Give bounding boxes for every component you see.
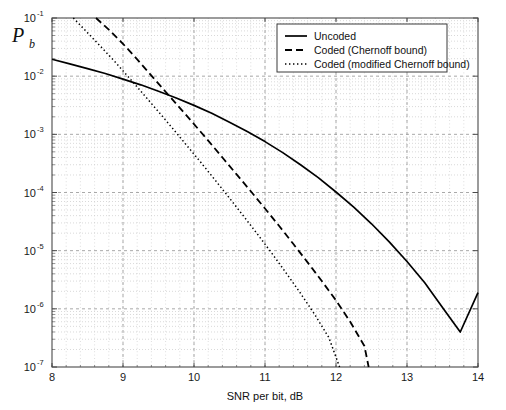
y-tick-label: 10	[24, 12, 36, 24]
x-tick-label: 10	[188, 371, 200, 383]
y-axis-label-subscript: b	[29, 37, 35, 51]
x-tick-label: 12	[330, 371, 342, 383]
x-tick-label: 9	[120, 371, 126, 383]
x-tick-label: 11	[259, 371, 270, 383]
x-tick-label: 13	[401, 371, 413, 383]
y-tick-label: 10	[24, 303, 36, 315]
y-tick-label: 10	[24, 128, 36, 140]
y-tick-exponent: -6	[37, 300, 44, 309]
y-tick-exponent: -1	[37, 9, 44, 18]
chart-figure: 891011121314 10-110-210-310-410-510-610-…	[0, 0, 506, 410]
legend-label-2: Coded (Chernoff bound)	[314, 44, 427, 56]
y-tick-exponent: -4	[37, 184, 44, 193]
y-tick-label: 10	[24, 187, 36, 199]
legend[interactable]: UncodedCoded (Chernoff bound)Coded (modi…	[277, 24, 470, 72]
y-tick-exponent: -5	[37, 242, 44, 251]
y-tick-exponent: -3	[37, 125, 44, 134]
y-tick-exponent: -7	[37, 358, 44, 367]
y-tick-exponent: -2	[37, 67, 44, 76]
y-axis-label: P	[11, 24, 24, 46]
x-tick-label: 14	[472, 371, 484, 383]
legend-label-3: Coded (modified Chernoff bound)	[314, 58, 470, 70]
x-axis-label: SNR per bit, dB	[227, 390, 303, 402]
x-tick-label: 8	[49, 371, 55, 383]
legend-label-1: Uncoded	[314, 30, 356, 42]
y-tick-label: 10	[24, 361, 36, 373]
y-tick-label: 10	[24, 70, 36, 82]
y-tick-label: 10	[24, 245, 36, 257]
